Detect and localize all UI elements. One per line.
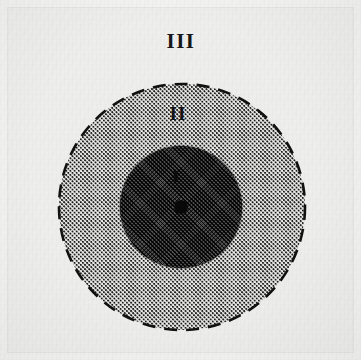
zone-three-label: III [166,31,195,52]
figure-root: III II I [0,0,361,360]
zone-two-label: II [169,104,186,123]
zone-one-label: I [172,168,179,185]
center-point-marker [174,200,188,214]
